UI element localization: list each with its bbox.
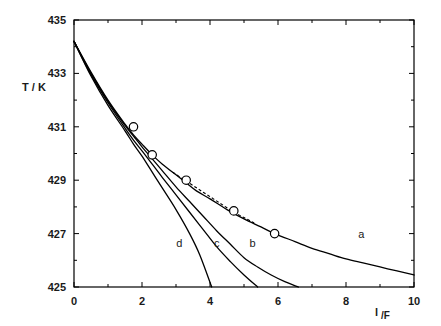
data-point-marker <box>182 176 190 184</box>
curve-a <box>74 41 414 275</box>
data-point-marker <box>230 207 238 215</box>
x-tick-label: 8 <box>343 295 349 307</box>
curve-c <box>74 41 258 287</box>
x-tick-label: 6 <box>275 295 281 307</box>
chart-figure: 0246810 425427429431433435 abcd T / K l … <box>0 0 441 326</box>
x-axis-title-sub: /F <box>381 310 390 321</box>
y-axis-ticks <box>74 20 414 287</box>
data-curves <box>74 41 414 287</box>
y-tick-label: 433 <box>48 67 66 79</box>
data-point-markers <box>129 123 278 238</box>
data-point-marker <box>148 151 156 159</box>
y-tick-label: 431 <box>48 121 66 133</box>
x-tick-label: 10 <box>408 295 420 307</box>
x-tick-label: 0 <box>71 295 77 307</box>
y-tick-label: 429 <box>48 174 66 186</box>
curve-b <box>74 41 298 287</box>
x-axis-ticks <box>74 20 414 287</box>
y-tick-label: 435 <box>48 14 66 26</box>
x-axis-title-main: l <box>375 306 378 318</box>
data-point-marker <box>129 123 137 131</box>
x-axis-title: l /F <box>375 306 390 321</box>
curve-label-c: c <box>214 237 220 249</box>
data-point-marker <box>270 229 278 237</box>
y-tick-label: 427 <box>48 228 66 240</box>
curve-label-d: d <box>176 237 182 249</box>
x-tick-label: 2 <box>139 295 145 307</box>
curve-label-a: a <box>358 228 365 240</box>
plot-area-border <box>74 20 414 287</box>
y-tick-label: 425 <box>48 281 66 293</box>
curve-label-b: b <box>249 237 255 249</box>
x-tick-label: 4 <box>207 295 214 307</box>
plot-frame <box>74 20 414 287</box>
chart-svg: 0246810 425427429431433435 abcd T / K l … <box>0 0 441 326</box>
y-axis-tick-labels: 425427429431433435 <box>48 14 66 293</box>
y-axis-title: T / K <box>22 81 46 93</box>
x-axis-tick-labels: 0246810 <box>71 295 420 307</box>
